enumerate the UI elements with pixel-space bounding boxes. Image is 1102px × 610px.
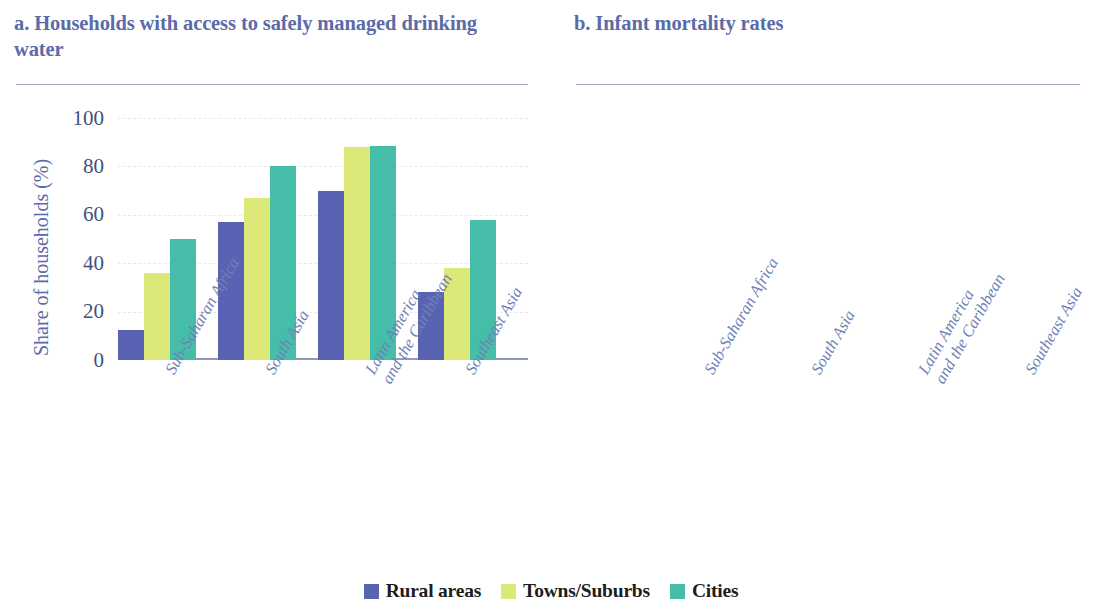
figure: a. Households with access to safely mana… [0,0,1102,610]
bar-group [218,118,296,360]
bar [344,147,370,360]
y-axis-tick-label: 60 [83,204,104,225]
panel-a-y-axis-title: Share of households (%) [30,159,53,356]
panel-a-plot-area: 020406080100 [118,118,528,360]
x-axis-category-label-line: Sub-Saharan Africa [700,254,782,377]
y-axis-tick-label: 20 [83,301,104,322]
legend-swatch-icon [364,584,379,599]
panel-a-title: a. Households with access to safely mana… [14,10,514,62]
y-axis-tick-label: 80 [83,156,104,177]
panel-b-title-line1: b. Infant mortality rates [574,12,783,34]
bar [118,330,144,360]
bar-group [118,118,196,360]
legend-swatch-icon [501,584,516,599]
y-axis-tick-label: 40 [83,253,104,274]
bar [318,191,344,360]
x-axis-category-label: Southeast Asia [1021,284,1086,378]
legend-item: Rural areas [364,580,481,602]
panel-a-rule [16,84,528,85]
legend-item: Towns/Suburbs [501,580,650,602]
legend: Rural areasTowns/SuburbsCities [0,580,1102,602]
legend-label: Rural areas [386,580,481,602]
panel-b-rule [576,84,1080,85]
panel-b: b. Infant mortality rates Share of child… [556,0,1102,575]
panel-a-title-line1: a. Households with access to safely [14,12,312,34]
legend-item: Cities [670,580,738,602]
x-axis-category-label: Latin Americaand the Caribbean [914,261,1009,387]
legend-label: Towns/Suburbs [523,580,650,602]
y-axis-tick-label: 100 [73,108,105,129]
panel-a: a. Households with access to safely mana… [0,0,556,575]
x-axis-category-label-line: South Asia [807,307,859,378]
legend-label: Cities [692,580,738,602]
y-axis-tick-label: 0 [94,350,105,371]
x-axis-category-label-line: Southeast Asia [1021,284,1086,378]
bar-group [318,118,396,360]
bar [144,273,170,360]
x-axis-category-label: South Asia [807,307,859,378]
bar [244,198,270,360]
legend-swatch-icon [670,584,685,599]
panel-b-title: b. Infant mortality rates [574,10,1054,36]
x-axis-category-label: Sub-Saharan Africa [700,254,782,377]
